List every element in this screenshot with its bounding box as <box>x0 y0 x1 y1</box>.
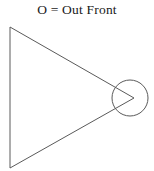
diagram-page: O = Out Front <box>0 0 154 171</box>
out-front-circle <box>112 80 148 116</box>
triangle-shape <box>10 27 134 168</box>
out-front-figure <box>0 0 154 171</box>
